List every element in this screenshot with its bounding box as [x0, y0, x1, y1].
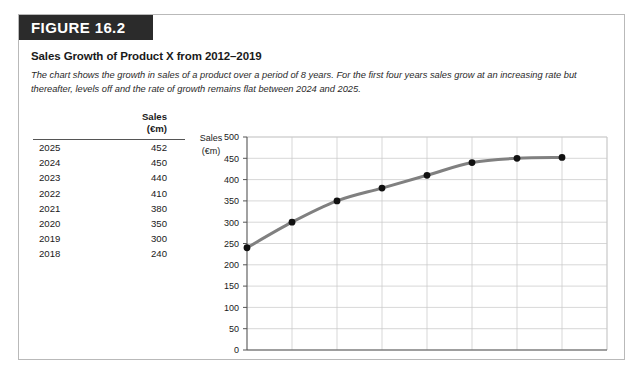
- table-cell-sales: 240: [94, 246, 185, 261]
- table-cell-sales: 410: [94, 186, 185, 201]
- x-tick-label: 2022: [417, 356, 437, 357]
- series-line-sales: [247, 157, 562, 247]
- figure-title: Sales Growth of Product X from 2012–2019: [31, 50, 262, 62]
- data-point-marker: [424, 172, 431, 179]
- figure-number-banner: FIGURE 16.2: [19, 15, 153, 40]
- table-cell-year: 2022: [33, 186, 94, 201]
- table-header-year-blank: [33, 123, 94, 135]
- figure-description: The chart shows the growth in sales of a…: [31, 68, 611, 97]
- table-row: 2023440: [33, 170, 185, 185]
- table-cell-sales: 300: [94, 231, 185, 246]
- data-point-marker: [289, 219, 296, 226]
- table-body: 2025452202445020234402022410202138020203…: [33, 140, 185, 262]
- y-tick-label: 150: [224, 281, 239, 291]
- chart-y-axis-ticks: 050100150200250300350400450500: [224, 132, 247, 355]
- y-tick-label: 250: [224, 239, 239, 249]
- data-point-marker: [469, 159, 476, 166]
- table-cell-year: 2024: [33, 155, 94, 170]
- table-header-row-2: (€m): [33, 123, 185, 135]
- table-cell-year: 2019: [33, 231, 94, 246]
- y-tick-label: 50: [229, 324, 239, 334]
- y-axis-title-line1: Sales: [200, 133, 223, 143]
- table-row: 2024450: [33, 155, 185, 170]
- table-header-year: [33, 111, 94, 123]
- table-header-sales: Sales: [94, 111, 185, 123]
- y-tick-label: 400: [224, 175, 239, 185]
- x-tick-label: 2025: [552, 356, 572, 357]
- chart-y-axis-title: Sales(€m): [200, 133, 223, 156]
- y-tick-label: 500: [224, 132, 239, 142]
- x-tick-label: 2026: [597, 356, 617, 357]
- data-point-marker: [334, 198, 341, 205]
- sales-line-chart: 050100150200250300350400450500 201820192…: [179, 107, 619, 357]
- data-point-marker: [514, 155, 521, 162]
- table-head: Sales (€m): [33, 111, 185, 140]
- chart-x-axis-ticks: 201820192020202120222023202420252026: [237, 356, 617, 357]
- x-tick-label: 2021: [372, 356, 392, 357]
- table-header-sales-unit: (€m): [94, 123, 185, 135]
- y-tick-label: 450: [224, 154, 239, 164]
- x-tick-label: 2023: [462, 356, 482, 357]
- data-point-marker: [244, 244, 251, 251]
- x-tick-label: 2020: [327, 356, 347, 357]
- table-cell-year: 2020: [33, 216, 94, 231]
- table-row: 2018240: [33, 246, 185, 261]
- table-cell-year: 2025: [33, 140, 94, 156]
- table-cell-year: 2018: [33, 246, 94, 261]
- y-tick-label: 0: [234, 345, 239, 355]
- table-cell-year: 2021: [33, 201, 94, 216]
- y-tick-label: 300: [224, 218, 239, 228]
- y-axis-title-line2: (€m): [202, 146, 221, 156]
- chart-svg: 050100150200250300350400450500 201820192…: [179, 107, 619, 357]
- table-row: 2021380: [33, 201, 185, 216]
- table-cell-sales: 440: [94, 170, 185, 185]
- table-cell-sales: 350: [94, 216, 185, 231]
- y-tick-label: 100: [224, 303, 239, 313]
- data-point-marker: [559, 154, 566, 161]
- chart-gridlines: [247, 137, 607, 350]
- x-tick-label: 2019: [282, 356, 302, 357]
- sales-data-table: Sales (€m) 20254522024450202344020224102…: [33, 111, 185, 262]
- table-cell-sales: 450: [94, 155, 185, 170]
- table-row: 2019300: [33, 231, 185, 246]
- table-row: 2022410: [33, 186, 185, 201]
- table-row: 2020350: [33, 216, 185, 231]
- x-tick-label: 2024: [507, 356, 527, 357]
- y-tick-label: 350: [224, 196, 239, 206]
- table-cell-year: 2023: [33, 170, 94, 185]
- table-cell-sales: 380: [94, 201, 185, 216]
- table-row: 2025452: [33, 140, 185, 156]
- x-tick-label: 2018: [237, 356, 257, 357]
- data-point-marker: [379, 185, 386, 192]
- table-cell-sales: 452: [94, 140, 185, 156]
- table-header-row-1: Sales: [33, 111, 185, 123]
- y-tick-label: 200: [224, 260, 239, 270]
- figure-frame: FIGURE 16.2 Sales Growth of Product X fr…: [18, 14, 625, 360]
